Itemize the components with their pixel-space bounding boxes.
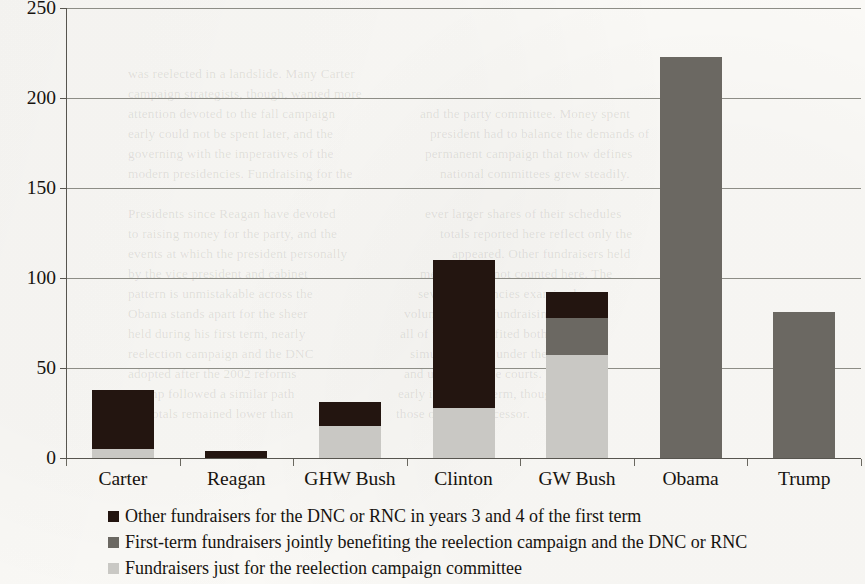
legend-color-swatch bbox=[108, 537, 119, 548]
legend-label: Fundraisers just for the reelection camp… bbox=[125, 559, 522, 577]
bar-segment bbox=[660, 57, 722, 458]
bar-segment bbox=[433, 408, 495, 458]
x-axis-label-reagan: Reagan bbox=[180, 466, 294, 492]
bar-segment bbox=[433, 260, 495, 408]
bar-group-obama[interactable] bbox=[660, 57, 722, 458]
x-axis-category-labels: CarterReaganGHW BushClintonGW BushObamaT… bbox=[66, 466, 861, 494]
x-tick-mark bbox=[407, 459, 408, 466]
bar-group-gw-bush[interactable] bbox=[546, 292, 608, 458]
legend-color-swatch bbox=[108, 563, 119, 574]
bar-group-reagan[interactable] bbox=[205, 451, 267, 458]
bar-series-container bbox=[66, 8, 861, 458]
bar-segment bbox=[92, 449, 154, 458]
x-tick-mark bbox=[747, 459, 748, 466]
x-axis-label-obama: Obama bbox=[634, 466, 748, 492]
bar-segment bbox=[546, 318, 608, 356]
x-tick-mark bbox=[66, 459, 67, 466]
stacked-bar-chart: 250200150100500 CarterReaganGHW BushClin… bbox=[0, 0, 865, 584]
x-tick-mark bbox=[180, 459, 181, 466]
y-axis-tick-label: 100 bbox=[0, 268, 56, 288]
y-axis-tick-label: 250 bbox=[0, 0, 56, 18]
bar-segment bbox=[546, 292, 608, 317]
x-tick-mark bbox=[861, 459, 862, 466]
y-axis-tick-label: 50 bbox=[0, 358, 56, 378]
legend-label: Other fundraisers for the DNC or RNC in … bbox=[125, 507, 641, 525]
legend-item[interactable]: Fundraisers just for the reelection camp… bbox=[108, 556, 848, 580]
x-tick-mark bbox=[293, 459, 294, 466]
x-tick-mark bbox=[520, 459, 521, 466]
x-tick-mark bbox=[634, 459, 635, 466]
bar-group-ghw-bush[interactable] bbox=[319, 402, 381, 458]
bar-segment bbox=[546, 355, 608, 458]
bar-segment bbox=[773, 312, 835, 458]
y-axis-tick-label: 150 bbox=[0, 178, 56, 198]
x-axis-label-carter: Carter bbox=[66, 466, 180, 492]
x-axis-label-trump: Trump bbox=[747, 466, 861, 492]
chart-legend: Other fundraisers for the DNC or RNC in … bbox=[108, 504, 848, 582]
bar-segment bbox=[92, 390, 154, 449]
bar-group-clinton[interactable] bbox=[433, 260, 495, 458]
x-axis-label-ghw-bush: GHW Bush bbox=[293, 466, 407, 492]
bar-group-trump[interactable] bbox=[773, 312, 835, 458]
bar-group-carter[interactable] bbox=[92, 390, 154, 458]
legend-label: First-term fundraisers jointly benefitin… bbox=[125, 533, 747, 551]
x-axis-label-clinton: Clinton bbox=[407, 466, 521, 492]
y-axis-tick-label: 0 bbox=[0, 448, 56, 468]
bar-segment bbox=[205, 451, 267, 458]
bar-segment bbox=[319, 402, 381, 425]
bar-segment bbox=[319, 426, 381, 458]
legend-item[interactable]: First-term fundraisers jointly benefitin… bbox=[108, 530, 848, 554]
y-axis-tick-label: 200 bbox=[0, 88, 56, 108]
legend-color-swatch bbox=[108, 511, 119, 522]
x-axis-line bbox=[66, 458, 861, 459]
x-axis-label-gw-bush: GW Bush bbox=[520, 466, 634, 492]
legend-item[interactable]: Other fundraisers for the DNC or RNC in … bbox=[108, 504, 848, 528]
